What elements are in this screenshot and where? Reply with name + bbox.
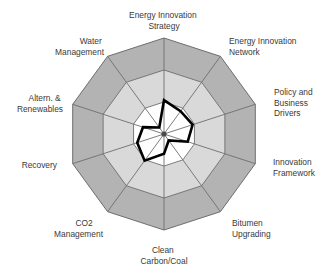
- axis-label-policy-and-business-drivers: Policy and Business Drivers: [274, 87, 315, 118]
- radar-chart-container: Energy Innovation Strategy Energy Innova…: [0, 0, 330, 276]
- axis-label-co2-management: CO2 Management: [54, 218, 104, 239]
- axis-label-bitumen-upgrading: Bitumen Upgrading: [232, 218, 271, 239]
- axis-label-energy-innovation-network: Energy Innovation Network: [229, 36, 299, 57]
- axis-label-clean-carbon-coal: Clean Carbon/Coal: [140, 245, 187, 266]
- radar-chart: Energy Innovation Strategy Energy Innova…: [0, 0, 330, 276]
- chart-center-hub: [161, 131, 166, 136]
- axis-label-energy-innovation-strategy: Energy Innovation Strategy: [129, 10, 199, 31]
- axis-label-innovation-framework: Innovation Framework: [273, 157, 316, 178]
- axis-label-water-management: Water Management: [55, 36, 105, 57]
- axis-label-recovery: Recovery: [22, 160, 58, 170]
- axis-label-altern-renewables: Altern. & Renewables: [17, 93, 63, 114]
